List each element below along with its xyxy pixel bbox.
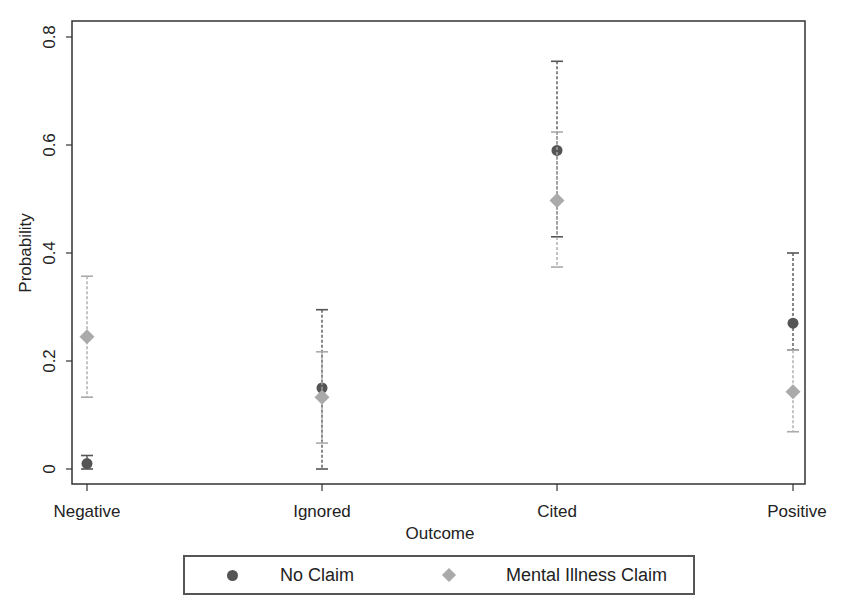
legend-item-mental-illness-claim: Mental Illness Claim [354,565,667,586]
circle-marker-icon [227,570,238,581]
x-tick-label: Ignored [293,502,351,521]
y-tick-label: 0.8 [40,25,59,49]
circle-marker-icon [82,458,93,469]
x-axis-title: Outcome [406,524,475,543]
y-axis-title: Probability [16,213,35,293]
y-axis: 00.20.40.60.8 [40,25,72,474]
diamond-marker-icon [550,193,565,208]
x-tick-label: Cited [537,502,577,521]
y-tick-label: 0.4 [40,241,59,265]
diamond-marker-icon [786,384,801,399]
x-tick-label: Positive [767,502,827,521]
legend: No Claim Mental Illness Claim [183,555,695,595]
x-tick-label: Negative [53,502,120,521]
legend-label: No Claim [280,565,354,586]
x-axis: NegativeIgnoredCitedPositive [53,484,826,521]
diamond-marker-icon [442,568,456,582]
y-tick-label: 0.6 [40,133,59,157]
data-series [80,61,801,469]
y-tick-label: 0 [40,464,59,473]
diamond-marker-icon [80,329,95,344]
chart-canvas: 00.20.40.60.8 NegativeIgnoredCitedPositi… [0,0,843,612]
series-mental-illness-claim [80,132,801,443]
circle-marker-icon [788,318,799,329]
series-no-claim [81,61,799,469]
legend-item-no-claim: No Claim [185,565,354,586]
plot-area [72,21,805,484]
diamond-marker-icon [315,390,330,405]
legend-label: Mental Illness Claim [506,565,667,586]
y-tick-label: 0.2 [40,349,59,373]
